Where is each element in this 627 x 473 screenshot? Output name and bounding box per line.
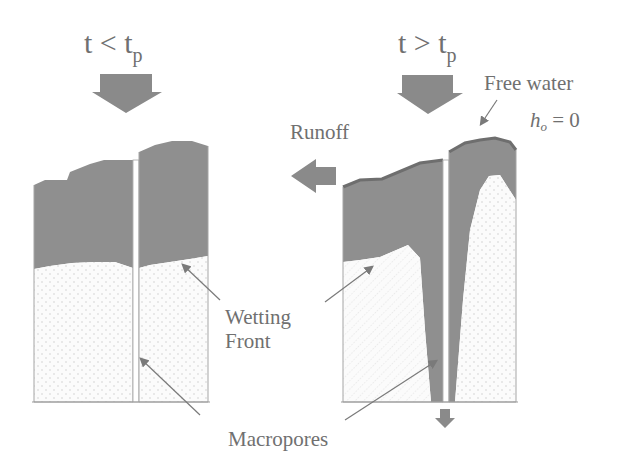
macropore-left	[133, 160, 139, 402]
head-label: ho = 0	[530, 108, 580, 134]
diagram-svg: t < tp t > tp	[0, 0, 627, 473]
runoff-label: Runoff	[290, 120, 349, 144]
left-title: t < tp	[84, 26, 143, 67]
rainfall-arrow-right	[397, 75, 463, 114]
drainage-arrow	[435, 409, 455, 428]
right-title: t > tp	[398, 26, 457, 67]
free-water-pointer	[481, 100, 497, 124]
runoff-arrow	[291, 159, 336, 193]
infiltration-diagram: t < tp t > tp	[0, 0, 627, 473]
rainfall-arrow-left	[92, 74, 162, 113]
left-soil-column-a	[34, 160, 133, 402]
left-soil-column-b	[139, 141, 208, 402]
left-panel: t < tp	[32, 26, 210, 402]
macropore-right	[443, 160, 449, 402]
right-soil-column-b	[449, 138, 516, 402]
macropores-label: Macropores	[228, 427, 328, 451]
wetting-front-label-line2: Front	[225, 329, 271, 353]
wetting-front-label-line1: Wetting	[225, 305, 291, 329]
free-water-label: Free water	[484, 71, 573, 95]
